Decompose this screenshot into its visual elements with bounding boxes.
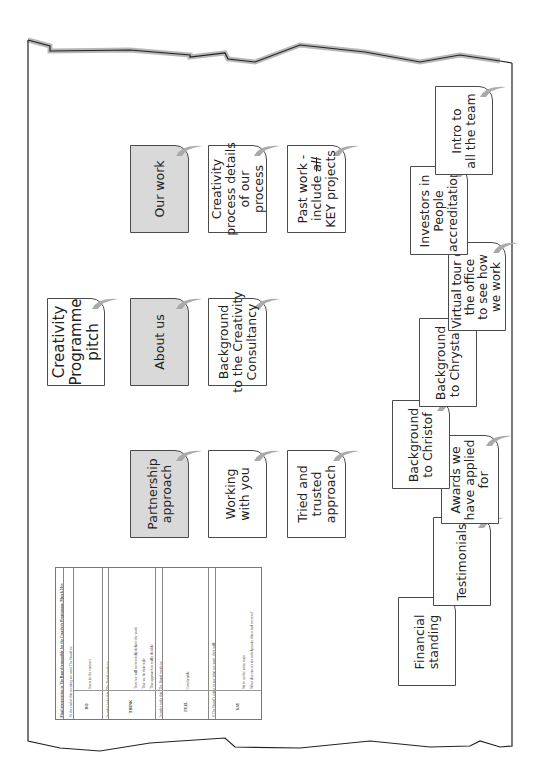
label-column-divider bbox=[74, 690, 261, 691]
table-row-think: Trust we will successfully deliver the w… bbox=[109, 568, 156, 719]
table-intro-row: At the end of this meeting we want The B… bbox=[64, 568, 74, 719]
note-testimonials[interactable]: Testimonials bbox=[433, 517, 491, 606]
table-intro-row: If The Board's going to say what we want… bbox=[209, 568, 216, 719]
table-intro-row: In order to do this, The Board needs to: bbox=[156, 568, 163, 719]
note-past-work[interactable]: Past work -include allKEY projects bbox=[287, 145, 346, 233]
table-row-feel: Comfortable bbox=[163, 568, 209, 719]
note-background-consultancy[interactable]: Backgroundto the CreativityConsultancy bbox=[208, 298, 267, 386]
note-tried-and-trusted[interactable]: Tried andtrustedapproach bbox=[287, 450, 346, 538]
title-card-note[interactable]: Creativity Programme pitch bbox=[47, 298, 105, 386]
note-working-with-you[interactable]: Workingwith you bbox=[208, 450, 267, 538]
note-background-chrystal[interactable]: Backgroundto Chrystal bbox=[419, 318, 477, 407]
note-intro-team[interactable]: Intro toall the team bbox=[435, 86, 493, 175]
planning-table: Final presentation to The Board responsi… bbox=[55, 567, 262, 720]
heading-note-our-work[interactable]: Our work bbox=[130, 145, 189, 233]
table-row-say: We're on the same team What else can we … bbox=[216, 568, 263, 719]
note-creativity-process[interactable]: Creativityprocess detailsof ourprocess bbox=[208, 145, 267, 233]
note-background-christof[interactable]: Backgroundto Christof bbox=[392, 400, 450, 489]
note-financial-standing[interactable]: Financialstanding bbox=[398, 597, 456, 686]
torn-paper-sheet: Creativity Programme pitch Partnershipap… bbox=[0, 0, 537, 771]
page-curl-icon bbox=[333, 447, 359, 461]
heading-note-about-us[interactable]: About us bbox=[130, 298, 189, 386]
table-title-row: Final presentation to The Board responsi… bbox=[56, 568, 64, 719]
page-curl-icon bbox=[176, 447, 202, 461]
note-virtual-tour[interactable]: Virtual tour ofthe officeto see howwe wo… bbox=[448, 242, 506, 331]
page-curl-icon bbox=[176, 142, 202, 156]
table-row-do: Invest in the contract bbox=[74, 568, 103, 719]
page-curl-icon bbox=[254, 447, 280, 461]
page-curl-icon bbox=[480, 83, 506, 97]
heading-note-partnership-approach[interactable]: Partnershipapproach bbox=[130, 450, 189, 538]
note-investors-in-people[interactable]: Investors inPeopleaccreditation bbox=[410, 166, 468, 255]
past-work-line-struck: include all bbox=[310, 150, 324, 228]
page-curl-icon bbox=[176, 295, 202, 309]
title-card-text: Creativity Programme pitch bbox=[51, 298, 102, 385]
